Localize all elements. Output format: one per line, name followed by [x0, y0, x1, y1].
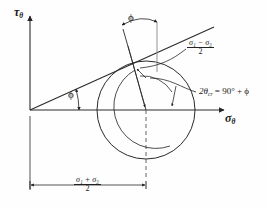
mohr-circle-figure: τθ σθ ϕ ϕ σ₁ − σ₃ 2 σ₁ + σ₃ 2 2θcr = 90°… — [0, 0, 268, 209]
diagram-canvas — [0, 0, 268, 209]
center-denominator: 2 — [74, 185, 101, 193]
theta-cr-label: 2θcr = 90° + ϕ — [199, 87, 249, 97]
radius-denominator: 2 — [187, 48, 214, 56]
radius-label-leader — [140, 49, 186, 68]
x-axis-label: σθ — [225, 112, 235, 126]
circle-center-label: σ₁ + σ₃ 2 — [74, 176, 101, 194]
theta-cr-label-leader — [150, 78, 196, 92]
theta-cr-arrow-end — [172, 86, 176, 106]
phi-slope-angle-arc — [76, 89, 79, 110]
axis-group — [30, 16, 224, 110]
radius-arrow — [128, 46, 145, 107]
phi-top-label: ϕ — [128, 12, 134, 23]
theta-cr-arrow-start — [137, 69, 146, 78]
phi-slope-label: ϕ — [68, 89, 74, 100]
circle-radius-label: σ₁ − σ₃ 2 — [187, 39, 214, 57]
y-axis-label: τθ — [14, 6, 23, 20]
